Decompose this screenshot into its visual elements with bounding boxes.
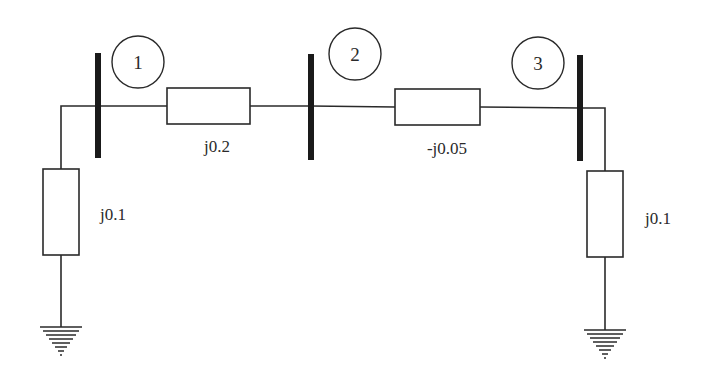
bus-label-1: 1 <box>112 36 164 88</box>
bus-label-3: 3 <box>512 37 564 89</box>
ground-icon <box>584 330 626 358</box>
bus-number: 3 <box>533 53 543 74</box>
impedance-box-icon <box>43 169 79 255</box>
wire-branch23-bus3 <box>480 107 580 108</box>
wiring <box>61 106 605 330</box>
one-line-diagram: 1 2 3 j0.2 -j0.05 j0.1 j0.1 <box>0 0 709 376</box>
bus-label-2: 2 <box>329 28 381 80</box>
impedance-box-icon <box>395 89 480 125</box>
ground-icon <box>40 327 82 355</box>
shunt-impedance-bus3: j0.1 <box>587 171 671 257</box>
bus-number: 1 <box>133 52 143 73</box>
impedance-label: j0.2 <box>203 137 230 156</box>
bus-number: 2 <box>350 44 360 65</box>
impedance-label: -j0.05 <box>427 139 467 158</box>
wire-bus3-shunt <box>580 108 605 171</box>
impedance-box-icon <box>587 171 623 257</box>
impedance-box-icon <box>167 88 250 124</box>
impedance-label: j0.1 <box>644 209 671 228</box>
series-impedance-1-2: j0.2 <box>167 88 250 156</box>
shunt-impedance-bus1: j0.1 <box>43 169 126 255</box>
series-impedance-2-3: -j0.05 <box>395 89 480 158</box>
wire-bus1-shunt <box>61 106 98 169</box>
wire-bus2-branch23 <box>311 106 395 107</box>
impedance-label: j0.1 <box>99 205 126 224</box>
